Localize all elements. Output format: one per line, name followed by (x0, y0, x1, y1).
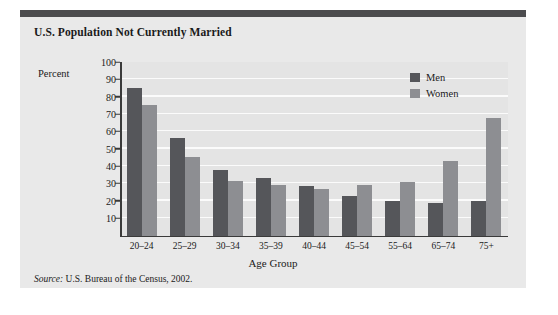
x-axis-line (120, 236, 508, 238)
bar-group (292, 62, 335, 236)
source-note: Source: U.S. Bureau of the Census, 2002. (34, 274, 193, 284)
bar-men (256, 178, 271, 235)
x-tick-label: 40–44 (302, 241, 326, 251)
bar-men (471, 201, 486, 236)
bar-group (336, 62, 379, 236)
chart-legend: MenWomen (410, 72, 458, 104)
y-axis-title: Percent (38, 68, 70, 79)
y-tick-label: 50 (76, 143, 116, 154)
bar-women (228, 181, 243, 236)
bar-group (206, 62, 249, 236)
bar-women (185, 157, 200, 235)
chart-title: U.S. Population Not Currently Married (34, 26, 232, 38)
bar-women (443, 161, 458, 236)
y-tick-mark (115, 165, 120, 167)
x-tick-label: 55–64 (388, 241, 412, 251)
y-tick-label: 10 (76, 213, 116, 224)
y-tick-label: 70 (76, 109, 116, 120)
chart-figure: U.S. Population Not Currently Married Pe… (20, 10, 526, 288)
bar-women (314, 189, 329, 236)
y-tick-mark (115, 217, 120, 219)
legend-swatch-men-icon (410, 73, 420, 82)
bar-women (357, 185, 372, 235)
y-tick-mark (115, 96, 120, 98)
bar-group (163, 62, 206, 236)
legend-swatch-women-icon (410, 89, 420, 98)
y-tick-mark (115, 79, 120, 81)
source-value: U.S. Bureau of the Census, 2002. (63, 274, 192, 284)
legend-label: Men (426, 72, 445, 83)
legend-item-women: Women (410, 88, 458, 99)
bar-group (465, 62, 508, 236)
y-tick-mark (115, 113, 120, 115)
bar-group (249, 62, 292, 236)
bar-group (120, 62, 163, 236)
y-tick-mark (115, 183, 120, 185)
y-tick-label: 100 (76, 57, 116, 68)
source-label: Source: (34, 274, 63, 284)
y-axis-line (120, 62, 122, 237)
bar-men (213, 170, 228, 236)
x-tick-label: 35–39 (259, 241, 283, 251)
legend-label: Women (426, 88, 458, 99)
y-tick-label: 90 (76, 74, 116, 85)
y-tick-mark (115, 148, 120, 150)
y-tick-label: 40 (76, 161, 116, 172)
bar-men (170, 138, 185, 235)
x-axis-title: Age Group (20, 257, 526, 269)
bar-women (271, 185, 286, 235)
y-tick-mark (115, 131, 120, 133)
legend-item-men: Men (410, 72, 458, 83)
y-tick-label: 60 (76, 126, 116, 137)
y-tick-label: 80 (76, 91, 116, 102)
y-tick-mark (115, 200, 120, 202)
bar-men (428, 203, 443, 236)
x-tick-label: 25–29 (173, 241, 197, 251)
y-tick-label: 30 (76, 178, 116, 189)
top-rule-divider (20, 10, 526, 17)
x-tick-label: 20–24 (130, 241, 154, 251)
bar-men (342, 196, 357, 236)
y-tick-label: 20 (76, 195, 116, 206)
bar-women (400, 182, 415, 236)
x-tick-label: 30–34 (216, 241, 240, 251)
bar-men (127, 88, 142, 235)
bar-women (142, 105, 157, 235)
bar-women (486, 118, 501, 236)
bar-men (385, 201, 400, 236)
bar-men (299, 186, 314, 235)
y-tick-mark (115, 61, 120, 63)
x-tick-label: 75+ (479, 241, 494, 251)
x-tick-label: 65–74 (431, 241, 455, 251)
x-tick-label: 45–54 (345, 241, 369, 251)
